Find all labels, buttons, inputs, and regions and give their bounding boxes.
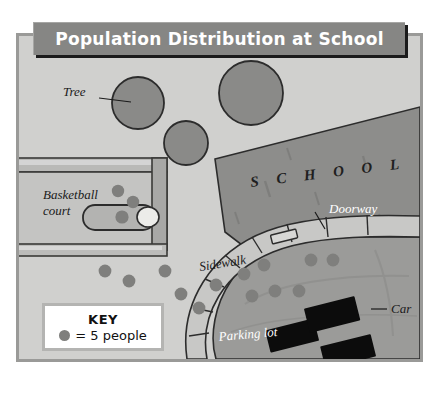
- person-dot: [238, 268, 251, 281]
- tree-label: Tree: [63, 84, 86, 99]
- title-banner: Population Distribution at School: [33, 22, 405, 55]
- key-entry-label: = 5 people: [75, 328, 147, 343]
- person-dot: [112, 185, 124, 197]
- person-dot: [193, 302, 206, 315]
- tree-circle: [112, 77, 164, 129]
- person-dot: [115, 210, 128, 223]
- key-heading: KEY: [88, 312, 118, 327]
- car-label: Car: [391, 301, 412, 316]
- person-dot: [269, 285, 282, 298]
- basketball-court-label-line2: court: [43, 203, 71, 218]
- basketball-court-label-line1: Basketball: [43, 187, 98, 202]
- key-entry-row: = 5 people: [59, 328, 147, 343]
- person-dot: [293, 285, 306, 298]
- person-dot: [127, 196, 139, 208]
- map-page: Tree Basketball court S C H O O L Doorwa…: [0, 0, 439, 395]
- person-dot: [175, 288, 188, 301]
- person-dot: [210, 279, 223, 292]
- doorway-label: Doorway: [328, 201, 378, 216]
- basketball-court: [19, 158, 167, 256]
- tree-circle: [219, 61, 283, 125]
- person-dot: [246, 290, 259, 303]
- person-dot: [258, 259, 271, 272]
- person-dot: [123, 275, 136, 288]
- key-legend-box: KEY = 5 people: [42, 303, 164, 351]
- person-dot: [305, 254, 318, 267]
- tree-circle: [164, 121, 208, 165]
- person-dot-icon: [59, 330, 70, 341]
- person-dot: [99, 265, 112, 278]
- person-dot: [327, 254, 340, 267]
- page-title: Population Distribution at School: [55, 29, 384, 49]
- person-dot: [159, 265, 172, 278]
